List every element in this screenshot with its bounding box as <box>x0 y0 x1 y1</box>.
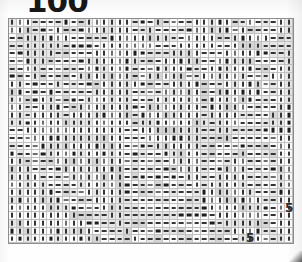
matrix-cell <box>201 212 209 220</box>
bar-glyph <box>103 128 105 133</box>
dash-glyph <box>164 199 169 201</box>
matrix-cell <box>186 189 194 197</box>
dash-glyph <box>233 238 238 240</box>
matrix-cell <box>247 197 255 205</box>
dash-glyph <box>10 68 15 70</box>
matrix-cell <box>193 204 201 212</box>
matrix-cell <box>201 235 209 243</box>
matrix-cell <box>139 235 147 243</box>
matrix-cell <box>178 42 186 50</box>
dash-glyph <box>48 83 53 85</box>
matrix-cell <box>186 96 194 104</box>
dash-glyph <box>64 68 69 70</box>
bar-glyph <box>126 59 129 64</box>
matrix-cell <box>216 50 224 58</box>
bar-glyph <box>27 213 29 218</box>
matrix-cell <box>178 197 186 205</box>
matrix-cell <box>224 96 232 104</box>
bar-glyph <box>111 59 113 64</box>
bar-glyph <box>180 59 183 64</box>
dash-glyph <box>125 176 130 178</box>
dash-glyph <box>102 222 107 224</box>
matrix-cell <box>40 50 48 58</box>
bar-glyph <box>165 136 167 141</box>
matrix-cell <box>101 50 109 58</box>
matrix-cell <box>116 197 124 205</box>
bar-glyph <box>80 113 82 118</box>
dash-glyph <box>202 114 207 116</box>
bar-glyph <box>26 59 29 64</box>
bar-glyph <box>73 174 75 179</box>
matrix-cell <box>163 135 171 143</box>
matrix-cell <box>86 212 94 220</box>
matrix-cell <box>262 34 270 42</box>
matrix-cell <box>24 104 32 112</box>
matrix-cell <box>124 34 132 42</box>
matrix-cell <box>132 135 140 143</box>
bar-glyph <box>203 74 205 79</box>
bar-glyph <box>42 105 44 110</box>
bar-glyph <box>19 174 21 179</box>
matrix-cell <box>193 27 201 35</box>
matrix-cell <box>139 197 147 205</box>
dash-glyph <box>279 60 284 62</box>
bar-glyph <box>226 113 228 118</box>
bar-glyph <box>226 82 228 87</box>
bar-glyph <box>279 190 282 195</box>
matrix-cell <box>78 197 86 205</box>
matrix-cell <box>155 50 163 58</box>
dash-glyph <box>271 137 276 139</box>
bar-glyph <box>96 136 98 141</box>
dash-glyph <box>71 21 76 23</box>
bar-glyph <box>126 43 128 48</box>
matrix-cell <box>32 189 40 197</box>
dash-glyph <box>194 230 199 232</box>
bar-glyph <box>65 128 67 133</box>
matrix-cell <box>285 65 293 73</box>
matrix-cell <box>24 81 32 89</box>
bar-glyph <box>111 213 113 218</box>
bar-glyph <box>88 20 90 25</box>
dash-glyph <box>263 106 268 108</box>
matrix-cell <box>262 104 270 112</box>
matrix-cell <box>224 150 232 158</box>
dash-glyph <box>271 184 276 186</box>
matrix-cell <box>124 119 132 127</box>
matrix-cell <box>17 181 25 189</box>
dash-glyph <box>140 153 145 155</box>
matrix-cell <box>78 220 86 228</box>
matrix-cell <box>262 220 270 228</box>
dash-glyph <box>140 99 145 101</box>
matrix-cell <box>55 65 63 73</box>
matrix-cell <box>124 127 132 135</box>
bar-glyph <box>65 229 67 234</box>
matrix-cell <box>209 89 217 97</box>
matrix-cell <box>40 158 48 166</box>
bar-glyph <box>180 113 182 118</box>
bar-glyph <box>73 136 75 141</box>
dash-glyph <box>286 37 291 39</box>
bar-glyph <box>42 43 44 48</box>
matrix-cell <box>186 81 194 89</box>
bar-glyph <box>73 144 75 149</box>
dash-glyph <box>140 137 145 139</box>
dash-glyph <box>217 52 222 54</box>
dash-glyph <box>133 21 138 23</box>
bar-glyph <box>103 43 105 48</box>
matrix-cell <box>178 158 186 166</box>
bar-glyph <box>19 221 21 226</box>
bar-glyph <box>210 105 213 110</box>
dash-glyph <box>248 153 253 155</box>
matrix-cell <box>86 150 94 158</box>
dash-glyph <box>148 60 153 62</box>
bar-glyph <box>27 182 29 187</box>
matrix-cell <box>132 235 140 243</box>
matrix-cell <box>93 58 101 66</box>
matrix-cell <box>216 158 224 166</box>
matrix-cell <box>270 235 278 243</box>
matrix-cell <box>116 65 124 73</box>
bar-glyph <box>50 198 52 203</box>
dash-glyph <box>271 21 276 23</box>
matrix-cell <box>232 65 240 73</box>
bar-glyph <box>180 159 182 164</box>
